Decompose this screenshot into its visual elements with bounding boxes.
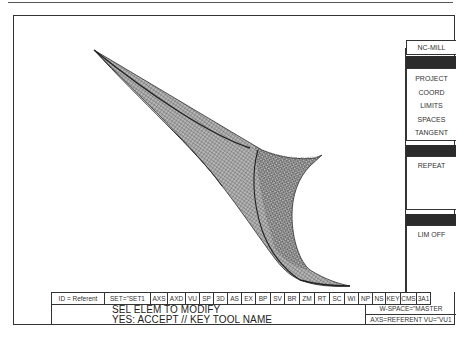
nc-mill-menu-panel: NC-MILL PROJECT COORD LIMITS SPACES TANG…: [405, 48, 455, 292]
menu-item-tangent[interactable]: TANGENT: [407, 126, 456, 140]
menu-item-repeat[interactable]: REPEAT: [407, 159, 456, 173]
workspace-info: W-SPACE="MASTER AXS=REFERENT VU="VU1: [365, 304, 455, 325]
status-left-blank: [14, 292, 51, 325]
prompt-line-2: YES: ACCEPT // KEY TOOL NAME: [112, 314, 272, 325]
menu-item-project[interactable]: PROJECT: [407, 72, 456, 86]
menu-title-nc-mill[interactable]: NC-MILL: [406, 40, 456, 55]
menu-item-coord[interactable]: COORD: [407, 86, 456, 100]
menu-group-3: LIM OFF: [406, 225, 456, 292]
menu-group-1: PROJECT COORD LIMITS SPACES TANGENT: [406, 68, 456, 141]
menu-item-lim-off[interactable]: LIM OFF: [407, 228, 456, 242]
menu-group-2: REPEAT: [406, 156, 456, 210]
message-area: SEL ELEM TO MODIFY YES: ACCEPT // KEY TO…: [51, 304, 365, 325]
menu-title-label: NC-MILL: [407, 41, 456, 55]
axis-view-label: AXS=REFERENT VU="VU1: [366, 315, 456, 326]
menu-separator-bar: [406, 145, 456, 156]
page-top-rule: [8, 2, 453, 3]
menu-separator-bar: [406, 56, 456, 68]
menu-separator-bar: [406, 214, 456, 225]
wireframe-surface: [14, 16, 406, 292]
graphics-viewport[interactable]: [14, 16, 406, 292]
workspace-label: W-SPACE="MASTER: [366, 304, 456, 315]
menu-item-spaces[interactable]: SPACES: [407, 113, 456, 127]
menu-item-limits[interactable]: LIMITS: [407, 99, 456, 113]
